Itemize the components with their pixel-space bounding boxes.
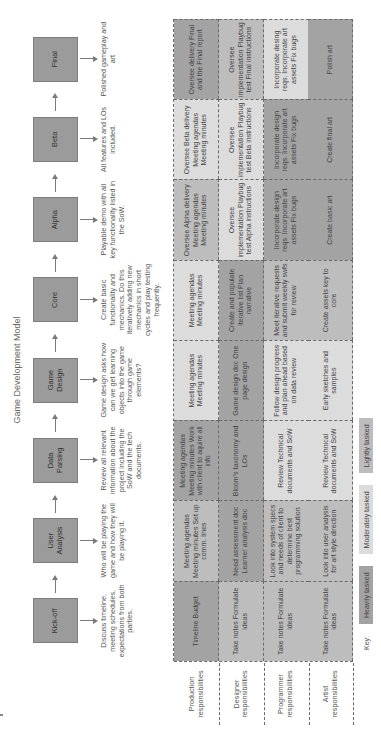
role-label: Production responsibilities bbox=[174, 663, 220, 725]
stage-box-alpha: Alpha bbox=[33, 197, 78, 242]
stage-description: Polished gameplay and art bbox=[100, 20, 118, 98]
role-label: Artist responsibilities bbox=[308, 663, 354, 725]
right-arrow-icon bbox=[55, 338, 56, 352]
table-cell: Timeline Budget bbox=[174, 581, 219, 661]
role-label: Programmer responsibilities bbox=[264, 663, 310, 725]
table-cell: Review Technical documents and SoW bbox=[264, 420, 309, 500]
table-cell: Meeting agendas Meeting minutes Work wit… bbox=[174, 420, 219, 500]
table-cell: Incorporate design reqs. Incorporate art… bbox=[264, 180, 309, 260]
table-cell: Bloom's taxonomy and LOs bbox=[219, 420, 264, 500]
table-cell: Game design doc One page design bbox=[219, 340, 264, 420]
table-cell: Meeting agendas Meeting minutes Set up c… bbox=[174, 501, 219, 581]
table-row: Designer responsibilitiesTake notes Form… bbox=[219, 19, 264, 661]
down-arrow-icon bbox=[80, 459, 94, 460]
stage-description: Playable demo with all key functionality… bbox=[100, 181, 126, 259]
table-cell: Oversee implementation Playbug test Alph… bbox=[219, 180, 264, 260]
stage-box-final: Final bbox=[33, 37, 78, 82]
table-cell: Polish art bbox=[308, 19, 353, 99]
diagram-title: Game Development Model bbox=[12, 0, 22, 740]
right-arrow-icon bbox=[55, 258, 56, 272]
table-cell: Oversee Alpha delivery Meeting agendas M… bbox=[174, 180, 219, 260]
table-cell: Meeting agendas Meeting minutes bbox=[174, 340, 219, 420]
stage-description: Who will be playing the game and how the… bbox=[100, 502, 126, 580]
table-cell: Take notes Formulate ideas bbox=[308, 581, 353, 661]
table-cell: Meet iterative requests and submit weekl… bbox=[264, 260, 309, 340]
table-cell: Oversee delivery Final and the Final rep… bbox=[174, 19, 219, 99]
stage-description: Create basic functionality and mechanics… bbox=[100, 261, 161, 339]
stage-description: Discuss timeline, meeting schedules, exp… bbox=[100, 582, 135, 660]
table-row: Programmer responsibilitiesTake notes Fo… bbox=[264, 19, 309, 661]
stage-description: Review all relevant information about th… bbox=[100, 421, 144, 499]
legend-moderately-tasked: Moderately tasked bbox=[359, 485, 373, 554]
table-cell: Oversee Beta delivery Meeting agendas Me… bbox=[174, 99, 219, 179]
table-cell: Take notes Formulate ideas bbox=[264, 581, 309, 661]
legend-label: Key: bbox=[363, 636, 370, 650]
table-row: Artist responsibilitiesTake notes Formul… bbox=[308, 19, 353, 661]
table-cell: Create final art bbox=[308, 99, 353, 179]
table-row: Production responsibilitiesTimeline Budg… bbox=[174, 19, 219, 661]
game-development-model-diagram: Game Development Model Kick-offDiscuss t… bbox=[0, 0, 381, 740]
table-cell: Follow design progress and plan ahead ba… bbox=[264, 340, 309, 420]
table-cell: Look into user analysis for art style di… bbox=[308, 501, 353, 581]
down-arrow-icon bbox=[80, 620, 94, 621]
stage-description: Game design asks how can we get learning… bbox=[100, 341, 144, 419]
stage-box-data-parsing: Data Parsing bbox=[33, 438, 78, 483]
down-arrow-icon bbox=[80, 219, 94, 220]
table-cell: Oversee implementation Playbug test Beta… bbox=[219, 99, 264, 179]
table-cell: Oversee implementation Playbug test Fina… bbox=[219, 19, 264, 99]
right-arrow-icon bbox=[55, 97, 56, 111]
legend-lightly-tasked: Lightly tasked bbox=[359, 418, 373, 473]
legend: Key: Heavily tasked Moderately tasked Li… bbox=[358, 406, 374, 650]
table-left-border bbox=[174, 661, 353, 662]
down-arrow-icon bbox=[80, 58, 94, 59]
right-arrow-icon bbox=[55, 579, 56, 593]
table-cell: Incorporate desing reqs. Incorporate art… bbox=[264, 19, 309, 99]
stage-box-user-analysis: User Analysis bbox=[33, 518, 78, 563]
down-arrow-icon bbox=[80, 138, 94, 139]
table-cell: Look into system specs and needs of clie… bbox=[264, 501, 309, 581]
down-arrow-icon bbox=[80, 540, 94, 541]
legend-heavily-tasked: Heavily tasked bbox=[359, 566, 373, 624]
stage-box-kick-off: Kick-off bbox=[33, 598, 78, 643]
table-cell: Review Technical documents and SoW bbox=[308, 420, 353, 500]
table-cell: Early sketches and samples bbox=[308, 340, 353, 420]
stage-box-core: Core bbox=[33, 277, 78, 322]
table-cell: Create assets key to core bbox=[308, 260, 353, 340]
right-arrow-icon bbox=[55, 178, 56, 192]
table-cell: Incorporate design reqs. Incorporate art… bbox=[264, 99, 309, 179]
stage-box-game-design: Game Design bbox=[33, 358, 78, 403]
table-cell: Take notes Formulate ideas bbox=[219, 581, 264, 661]
down-arrow-icon bbox=[80, 379, 94, 380]
table-cell: Create and populate iterative list Plan … bbox=[219, 260, 264, 340]
stage-box-beta: Beta bbox=[33, 117, 78, 162]
page-mark bbox=[0, 714, 3, 716]
right-arrow-icon bbox=[55, 418, 56, 432]
right-arrow-icon bbox=[55, 499, 56, 513]
table-cell: Need assessment doc Learner analysis doc bbox=[219, 501, 264, 581]
role-label: Designer responsibilities bbox=[219, 663, 265, 725]
down-arrow-icon bbox=[80, 299, 94, 300]
table-cell: Create basic art bbox=[308, 180, 353, 260]
table-cell: Meeting agendas Meeting minutes bbox=[174, 260, 219, 340]
stage-description: All features and LOs included. bbox=[100, 100, 118, 178]
